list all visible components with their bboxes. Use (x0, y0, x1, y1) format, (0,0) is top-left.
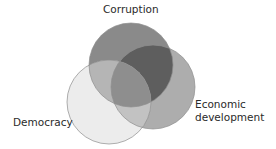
economic-label-line1: Economic (195, 98, 264, 111)
economic-development-label: Economic development (195, 98, 264, 124)
corruption-label: Corruption (103, 3, 159, 16)
democracy-label: Democracy (13, 116, 73, 129)
economic-label-line2: development (195, 111, 264, 124)
